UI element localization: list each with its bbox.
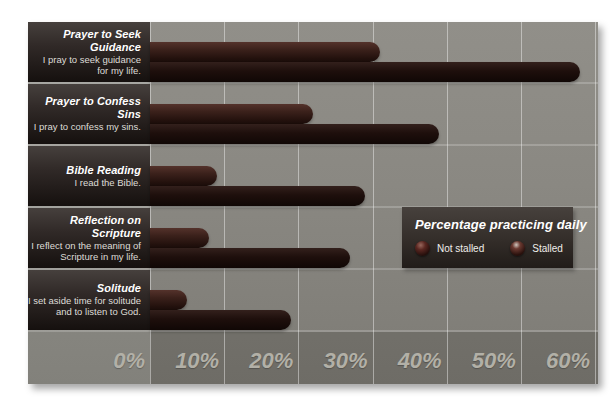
bar-stalled	[150, 104, 313, 124]
legend-item-stalled: Stalled	[510, 241, 563, 256]
bar-not-stalled	[150, 124, 439, 144]
x-tick-label: 30%	[323, 348, 367, 374]
x-tick-label: 60%	[546, 348, 590, 374]
legend: Percentage practicing daily Not stalled …	[402, 207, 573, 268]
category-description: I read the Bible.	[74, 177, 141, 188]
category-label-solitude: Solitude I set aside time for solitude a…	[28, 270, 150, 330]
row-separator	[28, 330, 598, 332]
bar-chart: Prayer to Seek Guidance I pray to seek g…	[28, 22, 598, 384]
category-description: and to listen to God.	[56, 306, 141, 317]
x-tick-label: 10%	[175, 348, 219, 374]
x-tick-label: 50%	[472, 348, 516, 374]
x-tick-label: 40%	[398, 348, 442, 374]
category-label-bible-reading: Bible Reading I read the Bible.	[28, 146, 150, 206]
category-title: Reflection on Scripture	[28, 214, 141, 240]
category-description: for my life.	[97, 65, 141, 76]
bar-stalled	[150, 42, 380, 62]
category-description: I set aside time for solitude	[28, 295, 141, 306]
bar-not-stalled	[150, 62, 580, 82]
category-description: I pray to seek guidance	[43, 54, 141, 65]
x-tick-label: 0%	[113, 348, 145, 374]
category-title: Bible Reading	[66, 164, 141, 177]
category-label-prayer-confess: Prayer to Confess Sins I pray to confess…	[28, 84, 150, 144]
legend-item-not-stalled: Not stalled	[415, 241, 484, 256]
category-label-reflection: Reflection on Scripture I reflect on the…	[28, 208, 150, 268]
x-tick-label: 20%	[249, 348, 293, 374]
category-description: Scripture in my life.	[60, 251, 141, 262]
category-title: Solitude	[97, 282, 141, 295]
chart-figure: Prayer to Seek Guidance I pray to seek g…	[0, 0, 614, 406]
bar-stalled	[150, 290, 187, 310]
category-description: I pray to confess my sins.	[34, 121, 141, 132]
not-stalled-dot-icon	[415, 241, 430, 256]
bar-stalled	[150, 228, 209, 248]
legend-label: Stalled	[532, 243, 563, 254]
category-description: I reflect on the meaning of	[31, 240, 141, 251]
bar-stalled	[150, 166, 217, 186]
category-label-prayer-guidance: Prayer to Seek Guidance I pray to seek g…	[28, 22, 150, 82]
category-title: Prayer to Confess Sins	[28, 95, 141, 121]
stalled-dot-icon	[510, 241, 525, 256]
bar-not-stalled	[150, 186, 365, 206]
bar-not-stalled	[150, 248, 350, 268]
legend-title: Percentage practicing daily	[415, 217, 573, 232]
category-title: Prayer to Seek Guidance	[28, 28, 141, 54]
legend-items: Not stalled Stalled	[415, 241, 573, 256]
legend-label: Not stalled	[437, 243, 484, 254]
bar-not-stalled	[150, 310, 291, 330]
